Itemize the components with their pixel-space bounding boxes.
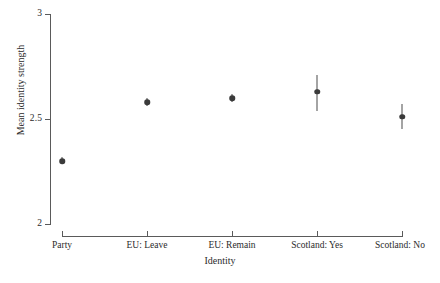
y-axis-tick-label-3: 3 [0,9,42,19]
data-point-scotland-yes [314,89,320,95]
x-axis-label-eu-leave: EU: Leave [127,240,168,251]
x-axis-tick-party [62,231,63,236]
x-axis-tick-scotland-no [402,231,403,236]
data-point-eu-remain [229,95,235,101]
x-axis-tick-eu-leave [147,231,148,236]
x-axis-tick-scotland-yes [317,231,318,236]
y-axis-tick-2 [45,224,50,225]
data-point-party [59,158,65,164]
x-axis-tick-eu-remain [232,231,233,236]
y-axis-tick-label-2: 2 [0,219,42,229]
x-axis-label-eu-remain: EU: Remain [208,240,255,251]
y-axis-line [50,14,51,225]
data-point-eu-leave [144,99,150,105]
data-point-scotland-no [399,114,405,120]
x-axis-title: Identity [0,255,440,266]
identity-strength-scatter-chart: 3 2.5 2 Mean identity strength Party EU:… [0,0,440,283]
y-axis-tick-2-5 [45,119,50,120]
x-axis-label-party: Party [52,240,72,251]
y-axis-tick-3 [45,14,50,15]
x-axis-line [62,236,403,237]
y-axis-title: Mean identity strength [16,20,26,160]
x-axis-label-scotland-no: Scotland: No [375,240,425,251]
x-axis-label-scotland-yes: Scotland: Yes [291,240,343,251]
